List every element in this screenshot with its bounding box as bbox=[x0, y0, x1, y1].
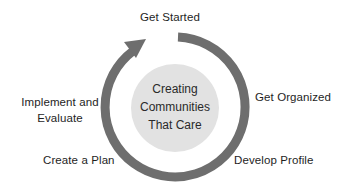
step-implement-and-evaluate: Implement and Evaluate bbox=[20, 94, 100, 126]
center-title: Creating Communities That Care bbox=[131, 80, 219, 134]
center-title-line: Communities bbox=[131, 98, 219, 116]
step-label-line: Implement and bbox=[20, 94, 100, 110]
center-title-line: That Care bbox=[131, 116, 219, 134]
cycle-diagram: Creating Communities That Care Get Start… bbox=[0, 0, 345, 187]
step-get-organized: Get Organized bbox=[255, 91, 331, 103]
center-title-line: Creating bbox=[131, 80, 219, 98]
step-create-a-plan: Create a Plan bbox=[43, 154, 115, 166]
step-develop-profile: Develop Profile bbox=[234, 154, 313, 166]
step-get-started: Get Started bbox=[140, 11, 200, 23]
step-label-line: Evaluate bbox=[20, 110, 100, 126]
